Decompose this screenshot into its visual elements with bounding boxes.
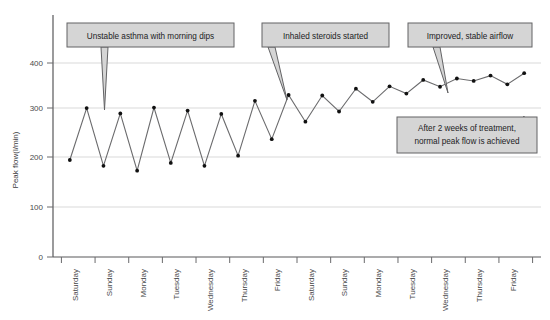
data-point bbox=[489, 74, 493, 78]
data-point bbox=[253, 99, 257, 103]
annotation-label-normal-peak-flow-line1: After 2 weeks of treatment, bbox=[418, 124, 516, 133]
data-point bbox=[354, 87, 358, 91]
x-axis-label-monday-w2: Monday bbox=[374, 269, 383, 297]
x-axis-label-friday-w1: Friday bbox=[273, 269, 282, 291]
annotation-label-normal-peak-flow-line2: normal peak flow is achieved bbox=[414, 137, 520, 146]
x-axis-label-thursday-w2: Thursday bbox=[475, 269, 484, 302]
data-point bbox=[236, 154, 240, 158]
data-point bbox=[421, 78, 425, 82]
y-axis-title: Peak flow(l/min) bbox=[11, 131, 20, 188]
x-axis-label-saturday-w1: Saturday bbox=[71, 269, 80, 301]
x-axis-label-monday-w1: Monday bbox=[139, 269, 148, 297]
data-point bbox=[472, 79, 476, 83]
y-tick-label-0: 0 bbox=[39, 253, 44, 262]
data-point bbox=[135, 169, 139, 173]
data-point bbox=[102, 164, 106, 168]
data-point bbox=[169, 161, 173, 165]
data-point bbox=[522, 71, 526, 75]
x-axis-label-friday-w2: Friday bbox=[509, 269, 518, 291]
data-point bbox=[68, 158, 72, 162]
y-tick-label-400: 400 bbox=[30, 59, 44, 68]
y-tick-label-200: 200 bbox=[30, 153, 44, 162]
data-point bbox=[337, 110, 341, 114]
data-point bbox=[304, 120, 308, 124]
annotation-box-normal-peak-flow bbox=[397, 117, 537, 153]
data-point bbox=[219, 112, 223, 116]
data-point bbox=[371, 100, 375, 104]
y-tick-label-100: 100 bbox=[30, 203, 44, 212]
data-point bbox=[388, 84, 392, 88]
peak-flow-chart: 400 300 200 100 0 Peak flow(l/min) Satur… bbox=[0, 0, 550, 320]
x-axis-label-sunday-w2: Sunday bbox=[340, 269, 349, 296]
annotation-normal-peak-flow: After 2 weeks of treatment, normal peak … bbox=[397, 116, 537, 153]
x-axis-label-tuesday-w1: Tuesday bbox=[172, 269, 181, 299]
data-point bbox=[270, 137, 274, 141]
y-tick-label-300: 300 bbox=[30, 104, 44, 113]
x-axis-label-sunday-w1: Sunday bbox=[105, 269, 114, 296]
x-axis-label-wednesday-w1: Wednesday bbox=[206, 269, 215, 311]
data-point bbox=[455, 77, 459, 81]
annotation-label-unstable-asthma: Unstable asthma with morning dips bbox=[87, 32, 214, 41]
x-axis-label-wednesday-w2: Wednesday bbox=[441, 269, 450, 311]
annotation-label-improved-airflow: Improved, stable airflow bbox=[427, 32, 514, 41]
x-axis-label-tuesday-w2: Tuesday bbox=[408, 269, 417, 299]
data-point bbox=[505, 82, 509, 86]
annotation-label-inhaled-steroids: Inhaled steroids started bbox=[283, 32, 369, 41]
data-point bbox=[186, 109, 190, 113]
data-point bbox=[85, 106, 89, 110]
data-point bbox=[152, 106, 156, 110]
data-point bbox=[203, 164, 207, 168]
chart-svg: 400 300 200 100 0 Peak flow(l/min) Satur… bbox=[0, 0, 550, 320]
data-point bbox=[404, 92, 408, 96]
data-point bbox=[118, 112, 122, 116]
data-point bbox=[438, 85, 442, 89]
x-axis-label-saturday-w2: Saturday bbox=[307, 269, 316, 301]
data-point bbox=[287, 93, 291, 97]
x-axis-label-thursday-w1: Thursday bbox=[240, 269, 249, 302]
data-point bbox=[320, 94, 324, 98]
